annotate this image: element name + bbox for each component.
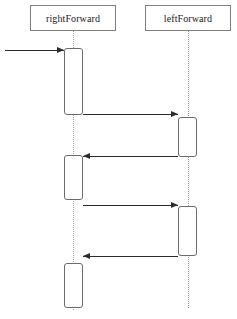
activation-bar-rightForward-2[interactable] — [64, 155, 83, 200]
message-arrow-5-line[interactable] — [83, 256, 178, 257]
activation-bar-rightForward-1[interactable] — [64, 48, 83, 115]
message-arrow-2-head-icon — [171, 111, 178, 117]
message-arrow-3-line[interactable] — [83, 156, 178, 157]
message-arrow-2-line[interactable] — [83, 114, 178, 115]
message-arrow-3-head-icon — [83, 153, 90, 159]
message-arrow-4-line[interactable] — [83, 205, 178, 206]
participant-header-rightForward[interactable]: rightForward — [30, 5, 116, 31]
participant-label-rightForward: rightForward — [46, 13, 100, 24]
message-arrow-1-head-icon — [57, 47, 64, 53]
lifeline-leftForward — [188, 31, 189, 308]
sequence-diagram-canvas: rightForward leftForward — [0, 0, 237, 319]
message-arrow-4-head-icon — [171, 202, 178, 208]
message-arrow-1-line[interactable] — [5, 50, 64, 51]
message-arrow-5-head-icon — [83, 253, 90, 259]
participant-label-leftForward: leftForward — [164, 13, 212, 24]
activation-bar-leftForward-2[interactable] — [178, 206, 197, 256]
activation-bar-leftForward-1[interactable] — [178, 117, 197, 157]
activation-bar-rightForward-3[interactable] — [64, 263, 83, 308]
participant-header-leftForward[interactable]: leftForward — [145, 5, 231, 31]
